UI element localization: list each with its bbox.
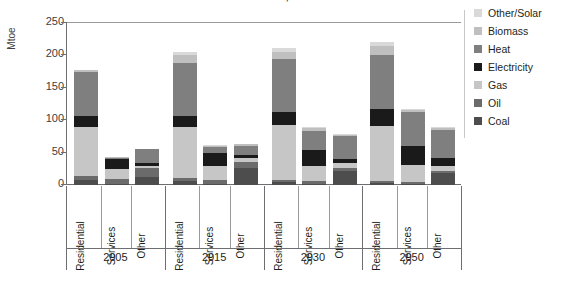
legend-label: Other/Solar	[488, 8, 542, 19]
bar-segment-heat	[370, 55, 394, 109]
bar-segment-gas	[173, 127, 197, 178]
bar-segment-electricity	[431, 158, 455, 165]
legend-item-heat[interactable]: Heat	[474, 44, 542, 55]
bar-segment-coal	[431, 173, 455, 185]
bar-segment-electricity	[401, 146, 425, 165]
bar-2005-residential[interactable]	[74, 70, 98, 185]
bar-segment-electricity	[370, 109, 394, 126]
x-category-cell: Residential	[173, 186, 197, 248]
bar-2050-services[interactable]	[401, 109, 425, 185]
bar-segment-coal	[105, 184, 129, 185]
bar-segment-heat	[74, 72, 98, 116]
group-label-2030: 2030	[264, 251, 363, 263]
legend-label: Heat	[488, 44, 510, 55]
legend-item-biomass[interactable]: Biomass	[474, 26, 542, 37]
y-tick-mark-150	[61, 87, 66, 88]
x-category-divider	[199, 186, 200, 248]
legend-swatch-heat	[474, 45, 482, 53]
y-tick-mark-100	[61, 119, 66, 120]
group-baseline	[264, 248, 363, 249]
group-separator	[461, 186, 462, 270]
bar-2015-services[interactable]	[203, 145, 227, 185]
x-category-divider	[101, 186, 102, 248]
x-category-divider	[298, 186, 299, 248]
bar-segment-heat	[401, 112, 425, 146]
x-category-cell: Other	[234, 186, 258, 248]
legend-label: Oil	[488, 98, 501, 109]
group-baseline	[362, 248, 461, 249]
legend-item-coal[interactable]: Coal	[474, 116, 542, 127]
bar-2005-services[interactable]	[105, 157, 129, 185]
legend-item-gas[interactable]: Gas	[474, 80, 542, 91]
y-tick-mark-250	[61, 22, 66, 23]
bar-2030-residential[interactable]	[272, 48, 296, 185]
bar-2050-other[interactable]	[431, 127, 455, 185]
chart-title: the Baseline scenario, 2005-2050	[110, 0, 410, 2]
x-category-cell: Other	[135, 186, 159, 248]
group-baseline	[66, 248, 165, 249]
bar-segment-oil	[135, 168, 159, 177]
bar-segment-heat	[173, 63, 197, 117]
bar-2015-residential[interactable]	[173, 52, 197, 185]
bar-segment-biomass	[370, 46, 394, 55]
bar-segment-electricity	[74, 116, 98, 126]
legend-label: Gas	[488, 80, 507, 91]
bar-segment-electricity	[105, 159, 129, 169]
bar-segment-coal	[74, 180, 98, 185]
legend-swatch-biomass	[474, 27, 482, 35]
x-category-cell: Residential	[370, 186, 394, 248]
bar-2030-services[interactable]	[302, 127, 326, 185]
x-category-cell: Other	[333, 186, 357, 248]
x-category-cell: Services	[302, 186, 326, 248]
bar-segment-heat	[302, 131, 326, 150]
x-category-divider	[131, 186, 132, 248]
x-category-cell: Services	[105, 186, 129, 248]
legend-swatch-coal	[474, 117, 482, 125]
bar-segment-electricity	[272, 112, 296, 124]
bar-segment-coal	[173, 181, 197, 185]
bar-segment-gas	[401, 165, 425, 182]
bar-segment-gas	[203, 166, 227, 180]
x-category-divider	[397, 186, 398, 248]
bar-segment-electricity	[203, 153, 227, 166]
legend-item-other-solar[interactable]: Other/Solar	[474, 8, 542, 19]
y-axis-label: Mtoe	[6, 19, 17, 59]
plot-area: 050100150200250	[66, 22, 461, 185]
legend-swatch-oil	[474, 99, 482, 107]
group-baseline	[165, 248, 264, 249]
legend-swatch-gas	[474, 81, 482, 89]
bar-segment-heat	[333, 136, 357, 159]
group-label-2005: 2005	[66, 251, 165, 263]
x-category-cell: Services	[401, 186, 425, 248]
x-category-cell: Services	[203, 186, 227, 248]
chart-legend: Other/SolarBiomassHeatElectricityGasOilC…	[474, 8, 542, 127]
bar-segment-heat	[431, 130, 455, 159]
group-label-2050: 2050	[362, 251, 461, 263]
y-axis-line	[66, 22, 67, 185]
bar-segment-coal	[234, 168, 258, 185]
y-tick-label-200: 200	[28, 48, 64, 59]
legend-item-oil[interactable]: Oil	[474, 98, 542, 109]
bar-segment-heat	[272, 59, 296, 113]
y-tick-mark-0	[61, 184, 66, 185]
bar-2015-other[interactable]	[234, 144, 258, 185]
y-tick-label-0: 0	[28, 178, 64, 189]
y-tick-label-250: 250	[28, 16, 64, 27]
legend-label: Electricity	[488, 62, 533, 73]
bar-segment-gas	[302, 166, 326, 182]
bar-segment-electricity	[302, 150, 326, 166]
y-tick-label-50: 50	[28, 146, 64, 157]
x-category-divider	[230, 186, 231, 248]
x-category-cell: Residential	[272, 186, 296, 248]
legend-item-electricity[interactable]: Electricity	[474, 62, 542, 73]
bar-2005-other[interactable]	[135, 149, 159, 185]
legend-swatch-other-solar	[474, 9, 482, 17]
plot-top-frame	[66, 22, 461, 23]
y-tick-mark-200	[61, 54, 66, 55]
bar-segment-coal	[135, 177, 159, 185]
legend-label: Coal	[488, 116, 510, 127]
bar-2050-residential[interactable]	[370, 42, 394, 185]
bar-segment-gas	[370, 126, 394, 181]
bar-2030-other[interactable]	[333, 134, 357, 185]
bar-segment-biomass	[173, 55, 197, 63]
